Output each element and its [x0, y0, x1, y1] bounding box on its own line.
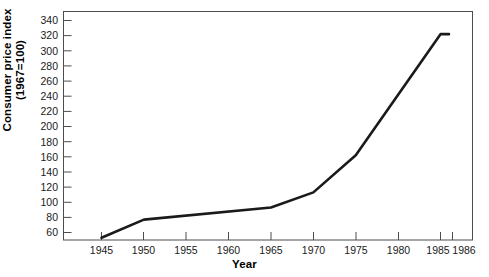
cpi-line-chart: 340 320 300 280 260 240 220 200 180 160 … [0, 0, 489, 277]
plot-frame [64, 12, 473, 241]
x-tick-label: 1980 [387, 244, 411, 256]
y-tick-label: 320 [40, 29, 58, 41]
y-tick-label: 260 [40, 75, 58, 87]
y-tick-label: 240 [40, 90, 58, 102]
y-axis-tick-labels: 340 320 300 280 260 240 220 200 180 160 … [40, 14, 58, 238]
x-tick-label: 1950 [132, 244, 156, 256]
y-tick-label: 180 [40, 136, 58, 148]
y-tick-label: 100 [40, 196, 58, 208]
x-tick-label: 1955 [174, 244, 198, 256]
y-tick-label: 200 [40, 120, 58, 132]
chart-canvas: 340 320 300 280 260 240 220 200 180 160 … [0, 0, 489, 277]
x-tick-label: 1970 [302, 244, 326, 256]
x-tick-label: 1965 [259, 244, 283, 256]
y-tick-label: 300 [40, 45, 58, 57]
y-tick-label: 60 [46, 226, 58, 238]
x-axis-tick-labels: 1945 1950 1955 1960 1965 1970 1975 1980 … [90, 244, 476, 256]
x-tick-label: 1975 [344, 244, 368, 256]
y-tick-label: 220 [40, 105, 58, 117]
y-tick-label: 340 [40, 14, 58, 26]
x-tick-label: 1960 [217, 244, 241, 256]
x-axis-label: Year [0, 258, 489, 270]
y-tick-label: 140 [40, 166, 58, 178]
x-tick-label: 1985 [426, 244, 450, 256]
y-tick-label: 80 [46, 211, 58, 223]
y-tick-label: 120 [40, 181, 58, 193]
x-tick-label: 1986 [452, 244, 476, 256]
x-tick-label: 1945 [90, 244, 114, 256]
y-tick-label: 160 [40, 151, 58, 163]
y-tick-label: 280 [40, 60, 58, 72]
